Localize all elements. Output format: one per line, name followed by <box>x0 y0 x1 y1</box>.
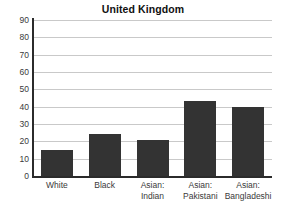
bar <box>41 150 73 176</box>
bar <box>89 134 121 176</box>
y-tick-label: 80 <box>5 33 29 42</box>
x-tick-label: Black <box>81 180 129 191</box>
x-tick-label: Asian: Indian <box>129 180 177 202</box>
y-tick-label: 30 <box>5 120 29 129</box>
x-tick-label: Asian: Pakistani <box>176 180 224 202</box>
y-tick-label: 10 <box>5 155 29 164</box>
bar <box>184 101 216 176</box>
y-tick-label: 40 <box>5 103 29 112</box>
bar <box>232 107 264 176</box>
x-axis-tick-labels: WhiteBlackAsian: IndianAsian: PakistaniA… <box>33 180 272 208</box>
x-tick-label: White <box>33 180 81 191</box>
y-tick-label: 70 <box>5 51 29 60</box>
bar <box>137 140 169 176</box>
y-tick-label: 0 <box>5 172 29 181</box>
y-tick-label: 50 <box>5 85 29 94</box>
bar-chart-figure: United Kingdom 0102030405060708090 White… <box>0 0 286 210</box>
x-axis-line <box>32 176 272 178</box>
y-tick-label: 90 <box>5 16 29 25</box>
y-tick-label: 20 <box>5 137 29 146</box>
y-axis-tick-labels: 0102030405060708090 <box>4 20 29 176</box>
bars-layer <box>33 20 272 176</box>
x-tick-label: Asian: Bangladeshi <box>224 180 272 202</box>
y-tick-label: 60 <box>5 68 29 77</box>
chart-title: United Kingdom <box>0 3 286 15</box>
